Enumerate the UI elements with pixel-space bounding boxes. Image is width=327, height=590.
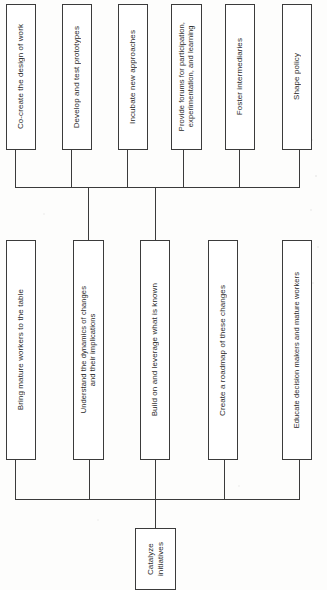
connector-provide-forums: [183, 150, 184, 187]
diagram-canvas: Co-create the design of work Develop and…: [0, 0, 327, 590]
connector-develop-test-prototypes: [71, 150, 72, 187]
node-label: Build on and leverage what is known: [150, 280, 160, 419]
node-label: Catalyze initiatives: [146, 539, 166, 579]
node-develop-test-prototypes[interactable]: Develop and test prototypes: [62, 4, 92, 150]
connector-foster-intermediaries: [239, 150, 240, 187]
connector-shape-policy: [299, 150, 300, 187]
node-label: Incubate new approaches: [128, 27, 138, 127]
node-build-on-leverage[interactable]: Build on and leverage what is known: [140, 240, 170, 460]
connector-build-on-leverage: [155, 460, 156, 499]
connector-co-create-design: [15, 150, 16, 187]
node-label: Shape policy: [292, 50, 302, 103]
node-label: Co-create the design of work: [16, 21, 26, 132]
node-understand-dynamics[interactable]: Understand the dynamics of changes and t…: [73, 240, 104, 460]
node-label: Understand the dynamics of changes and t…: [79, 283, 98, 416]
connector-bring-mature-workers: [15, 460, 16, 499]
node-bring-mature-workers[interactable]: Bring mature workers to the table: [6, 240, 36, 460]
connector-incubate-new-approaches: [127, 150, 128, 187]
node-label: Foster intermediaries: [235, 35, 245, 118]
connector-understand-dynamics: [89, 460, 90, 499]
node-provide-forums[interactable]: Provide forums for participation, experi…: [171, 4, 202, 150]
node-educate-decision-makers[interactable]: Educate decision makers and mature worke…: [282, 240, 312, 460]
node-label: Bring mature workers to the table: [16, 286, 26, 413]
node-shape-policy[interactable]: Shape policy: [282, 4, 312, 150]
connector-bus-upper: [15, 187, 300, 188]
node-co-create-design[interactable]: Co-create the design of work: [6, 4, 36, 150]
connector-bus-upper-to-understand-dynamics: [88, 187, 89, 240]
connector-bus-upper-to-build-on-leverage: [155, 187, 156, 240]
connector-bus-lower: [15, 499, 300, 500]
node-catalyze-initiatives[interactable]: Catalyze initiatives: [135, 528, 176, 590]
node-label: Provide forums for participation, experi…: [177, 19, 196, 134]
node-label: Create a roadmap of these changes: [218, 282, 228, 419]
node-label: Educate decision makers and mature worke…: [292, 269, 301, 431]
node-create-roadmap[interactable]: Create a roadmap of these changes: [208, 240, 238, 460]
connector-create-roadmap: [224, 460, 225, 499]
node-label: Develop and test prototypes: [72, 23, 82, 131]
connector-bus-lower-to-catalyze-initiatives: [155, 499, 156, 528]
connector-educate-decision-makers: [299, 460, 300, 499]
node-incubate-new-approaches[interactable]: Incubate new approaches: [118, 4, 148, 150]
node-foster-intermediaries[interactable]: Foster intermediaries: [225, 4, 255, 150]
